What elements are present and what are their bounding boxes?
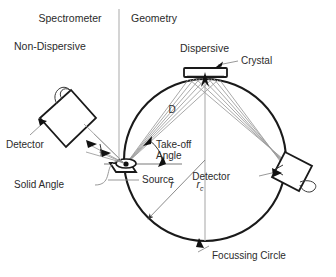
figure-title-geometry: Geometry xyxy=(131,12,178,24)
label-detector-right: Detector xyxy=(192,171,230,182)
source xyxy=(110,159,136,172)
label-radius-rc-subscript: c xyxy=(200,185,204,192)
label-detector-left: Detector xyxy=(6,139,44,150)
detector-left-callout xyxy=(30,119,47,136)
mode-label-dispersive: Dispersive xyxy=(180,42,229,54)
label-focussing-circle: Focussing Circle xyxy=(212,250,286,261)
label-crystal: Crystal xyxy=(241,55,272,66)
ray-bundle-crystal-to-detector xyxy=(190,78,286,169)
mode-label-non-dispersive: Non-Dispersive xyxy=(14,40,86,52)
label-source: Source xyxy=(142,174,174,185)
figure-title-spectrometer: Spectrometer xyxy=(38,12,102,24)
label-takeoff-angle-line1: Take-off xyxy=(156,139,192,150)
detector-left xyxy=(40,87,96,147)
spectrometer-geometry-figure: Spectrometer Geometry Non-Dispersive Dis… xyxy=(0,0,336,277)
label-solid-angle: Solid Angle xyxy=(14,179,64,190)
label-takeoff-angle-line2: Angle xyxy=(156,150,182,161)
label-distance-d: D xyxy=(168,104,175,115)
solid-angle-cone xyxy=(84,124,124,163)
